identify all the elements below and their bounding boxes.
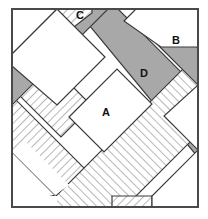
label-C: C <box>76 9 84 21</box>
region-bottom-centre-white <box>12 196 57 207</box>
weave-cross-nw-hatch-over-ne-gray <box>112 196 152 207</box>
weave-diagram: A B C D <box>0 0 208 219</box>
label-B: B <box>172 34 180 46</box>
label-A: A <box>102 106 110 118</box>
weave-figure: A B C D <box>0 0 208 219</box>
label-D: D <box>140 67 148 79</box>
